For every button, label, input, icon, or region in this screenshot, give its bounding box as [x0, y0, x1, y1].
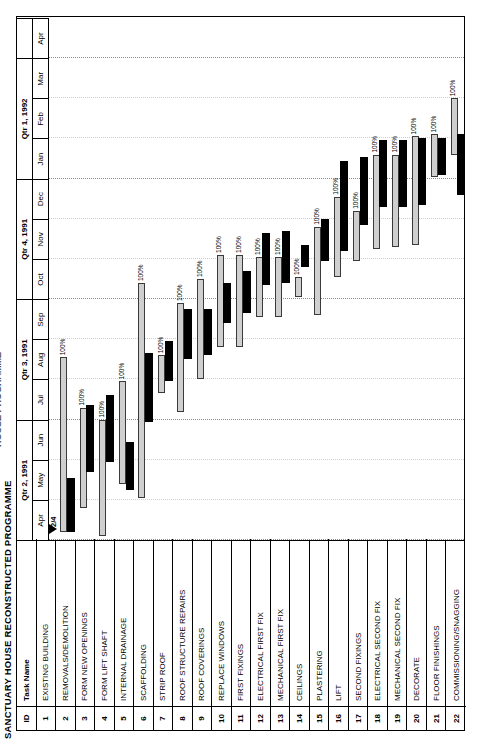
table-row[interactable]: 5INTERNAL DRAINAGE — [115, 539, 135, 730]
gantt-bar-actual[interactable] — [321, 219, 329, 261]
cell-task-name: DECORATE — [407, 539, 426, 706]
table-row[interactable]: 22COMMISSIONING/SNAGGING — [446, 539, 466, 730]
gantt-document: HOUSE PROGRAMME SANCTUARY HOUSE RECONSTR… — [0, 0, 481, 747]
table-row[interactable]: 1EXISTING BUILDING — [37, 539, 57, 730]
table-row[interactable]: 8ROOF STRUCTURE REPAIRS — [173, 539, 193, 730]
table-row[interactable]: 17SECOND FIXINGS — [349, 539, 369, 730]
gantt-bar-actual[interactable] — [145, 353, 153, 421]
table-row[interactable]: 18ELECTRICAL SECOND FIX — [368, 539, 388, 730]
timescale-month: Oct — [33, 259, 49, 299]
table-row[interactable]: 10REPLACE WINDOWS — [212, 539, 232, 730]
gantt-plot-area: 100%100%100%100%100%100%100%100%100%100%… — [49, 17, 465, 540]
gantt-bar-actual[interactable] — [399, 140, 407, 206]
rotated-page-frame: HOUSE PROGRAMME SANCTUARY HOUSE RECONSTR… — [0, 0, 481, 747]
timescale-month: Apr — [33, 18, 49, 58]
gantt-bar-actual[interactable] — [457, 134, 465, 194]
cell-task-name: PLASTERING — [310, 539, 329, 706]
table-row[interactable]: 4FORM LIFT SHAFT — [95, 539, 115, 730]
cell-task-id: 13 — [271, 706, 290, 730]
percent-complete-label: 100% — [236, 236, 243, 253]
gantt-bar-actual[interactable] — [126, 442, 134, 490]
gantt-bar-actual[interactable] — [67, 478, 75, 532]
cell-task-name: MECHANICAL FIRST FIX — [271, 539, 290, 706]
month-gridline — [49, 338, 465, 339]
percent-complete-label: 100% — [216, 236, 223, 253]
cell-task-id: 20 — [407, 706, 426, 730]
percent-complete-label: 100% — [177, 284, 184, 301]
gantt-bar-actual[interactable] — [86, 406, 94, 472]
cell-task-id: 9 — [193, 706, 212, 730]
gantt-bar-actual[interactable] — [184, 309, 192, 359]
timescale-month: Feb — [33, 98, 49, 138]
table-row[interactable]: 12ELECTRICAL FIRST FIX — [251, 539, 271, 730]
percent-complete-label: 100% — [372, 136, 379, 153]
cell-task-id: 4 — [95, 706, 114, 730]
percent-complete-label: 100% — [392, 136, 399, 153]
table-row[interactable]: 2REMOVALS/DEMOLITION — [56, 539, 76, 730]
cell-task-name: FORM LIFT SHAFT — [95, 539, 114, 706]
table-row[interactable]: 9ROOF COVERINGS — [193, 539, 213, 730]
gantt-bar-actual[interactable] — [282, 231, 290, 283]
gantt-bar-actual[interactable] — [438, 138, 446, 174]
cell-task-id: 3 — [76, 706, 95, 730]
timescale-month: Jun — [33, 420, 49, 460]
percent-complete-label: 100% — [138, 264, 145, 281]
table-row[interactable]: 13MECHANICAL FIRST FIX — [271, 539, 291, 730]
status-date-marker-label: 2/4 — [49, 517, 58, 527]
table-row[interactable]: 11FIRST FIXINGS — [232, 539, 252, 730]
gantt-bar-actual[interactable] — [379, 140, 387, 206]
gantt-bar-actual[interactable] — [243, 271, 251, 313]
table-header-row: IDTask Name — [17, 539, 37, 730]
gantt-bar-actual[interactable] — [301, 245, 309, 267]
timescale-quarter — [17, 18, 33, 58]
table-row[interactable]: 20DECORATE — [407, 539, 427, 730]
gantt-bar-actual[interactable] — [360, 157, 368, 225]
cell-task-name: COMMISSIONING/SNAGGING — [446, 539, 466, 706]
cell-task-name: INTERNAL DRAINAGE — [115, 539, 134, 706]
cell-task-id: 15 — [310, 706, 329, 730]
timescale-month: Dec — [33, 179, 49, 219]
table-row[interactable]: 15PLASTERING — [310, 539, 330, 730]
table-row[interactable]: 7STRIP ROOF — [154, 539, 174, 730]
cell-task-name: ELECTRICAL SECOND FIX — [368, 539, 387, 706]
table-row[interactable]: 6SCAFFOLDING — [134, 539, 154, 730]
timescale-quarter: Qtr 3, 1991 — [17, 299, 33, 419]
percent-complete-label: 100% — [450, 80, 457, 97]
table-row[interactable]: 14CEILINGS — [290, 539, 310, 730]
cell-task-id: 22 — [446, 706, 466, 730]
table-row[interactable]: 3FORM NEW OPENINGS — [76, 539, 96, 730]
gantt-bar-actual[interactable] — [204, 309, 212, 355]
gantt-bar-actual[interactable] — [223, 283, 231, 323]
column-header-task-name: Task Name — [17, 539, 36, 706]
percent-complete-label: 100% — [79, 389, 86, 406]
table-row[interactable]: 21FLOOR FINISHINGS — [427, 539, 447, 730]
page-header-partial: HOUSE PROGRAMME — [0, 352, 3, 447]
cell-task-id: 5 — [115, 706, 134, 730]
gantt-bar-actual[interactable] — [165, 341, 173, 381]
cell-task-name: FORM NEW OPENINGS — [76, 539, 95, 706]
month-gridline — [49, 378, 465, 379]
timescale-month: May — [33, 460, 49, 500]
month-gridline — [49, 499, 465, 500]
percent-complete-label: 100% — [275, 238, 282, 255]
percent-complete-label: 100% — [99, 401, 106, 418]
table-row[interactable]: 16LIFT — [329, 539, 349, 730]
cell-task-name: SECOND FIXINGS — [349, 539, 368, 706]
cell-task-id: 18 — [368, 706, 387, 730]
gantt-bar-actual[interactable] — [106, 395, 114, 461]
cell-task-id: 6 — [134, 706, 153, 730]
percent-complete-label: 100% — [158, 337, 165, 354]
percent-complete-label: 100% — [411, 118, 418, 135]
percent-complete-label: 100% — [197, 260, 204, 277]
cell-task-name: MECHANICAL SECOND FIX — [388, 539, 407, 706]
timescale-month: Aug — [33, 339, 49, 379]
gantt-bar-actual[interactable] — [418, 138, 426, 204]
table-row[interactable]: 19MECHANICAL SECOND FIX — [388, 539, 408, 730]
gantt-bar-actual[interactable] — [340, 161, 348, 251]
gantt-bar-actual[interactable] — [262, 233, 270, 285]
column-header-id: ID — [17, 706, 36, 730]
cell-task-id: 11 — [232, 706, 251, 730]
gantt-bar-planned[interactable] — [295, 277, 302, 297]
cell-task-name: SCAFFOLDING — [134, 539, 153, 706]
cell-task-id: 21 — [427, 706, 446, 730]
